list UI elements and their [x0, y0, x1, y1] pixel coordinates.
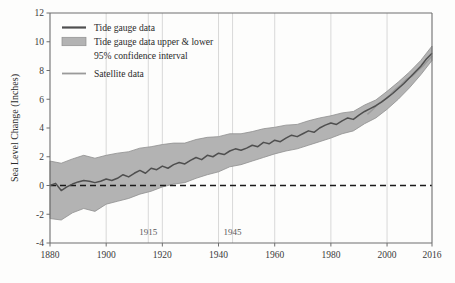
chart-canvas: -4-2024681012188019001920194019601980200… [0, 0, 455, 283]
x-tick-label: 1900 [97, 250, 116, 260]
x-tick-label: 1960 [265, 250, 284, 260]
y-tick-label: 4 [39, 123, 44, 133]
sea-level-chart-figure: -4-2024681012188019001920194019601980200… [0, 0, 455, 283]
y-tick-label: 0 [39, 181, 44, 191]
x-tick-label: 2016 [423, 250, 442, 260]
legend-label-satellite: Satellite data [94, 68, 145, 79]
x-tick-label: 2000 [378, 250, 397, 260]
y-tick-label: 10 [35, 37, 45, 47]
x-tick-label: 1880 [41, 250, 60, 260]
y-tick-label: -4 [36, 238, 44, 248]
inner-gridline-label: 1945 [224, 227, 243, 237]
legend-label-confidence-band-line1: Tide gauge data upper & lower [94, 36, 214, 47]
legend-label-confidence-band-line2: 95% confidence interval [94, 50, 188, 61]
y-tick-label: 8 [39, 66, 44, 76]
y-tick-label: 2 [39, 152, 44, 162]
y-tick-label: 12 [35, 8, 45, 18]
x-tick-label: 1940 [209, 250, 228, 260]
y-axis-title: Sea Level Change (Inches) [9, 74, 21, 182]
legend-label-tide-gauge: Tide gauge data [94, 22, 156, 33]
y-tick-label: 6 [39, 95, 44, 105]
legend-swatch-confidence-band [62, 37, 86, 45]
y-tick-label: -2 [36, 210, 44, 220]
inner-gridline-label: 1915 [139, 227, 158, 237]
x-tick-label: 1920 [153, 250, 172, 260]
x-tick-label: 1980 [321, 250, 340, 260]
